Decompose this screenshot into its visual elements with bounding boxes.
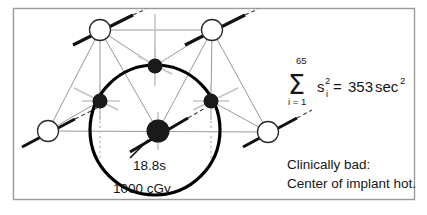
isodose-value-label: 1000 cGy [113,181,171,196]
sum-variable: s [317,78,325,95]
dwell-time-label: 18.8s [133,158,166,173]
source-dot-left [93,94,108,109]
sum-variable-subscript: i [326,88,328,99]
equals-sign: = [333,78,342,95]
result-unit-superscript: 2 [400,75,405,86]
sum-upper-limit: 65 [296,55,307,66]
annotation-line-2: Center of implant hot. [287,176,416,191]
result-unit: sec [375,78,399,95]
catheter-top-right [202,20,223,41]
source-dot-center [147,120,170,143]
result-value: 353 [348,78,373,95]
source-dot-top [148,59,163,74]
annotation-line-1: Clinically bad: [287,157,370,172]
catheter-bottom-right [258,122,279,143]
figure-root: 18.8s 1000 cGy 65 Σ i = 1 s 2 i = 353 se… [0,0,427,215]
sum-lower-limit: i = 1 [288,96,306,107]
implant-isodose-diagram: 18.8s 1000 cGy 65 Σ i = 1 s 2 i = 353 se… [0,0,427,215]
sum-variable-superscript: 2 [325,75,330,86]
catheter-top-left [90,20,111,41]
source-dot-right [204,94,219,109]
catheter-bottom-left [38,121,59,142]
